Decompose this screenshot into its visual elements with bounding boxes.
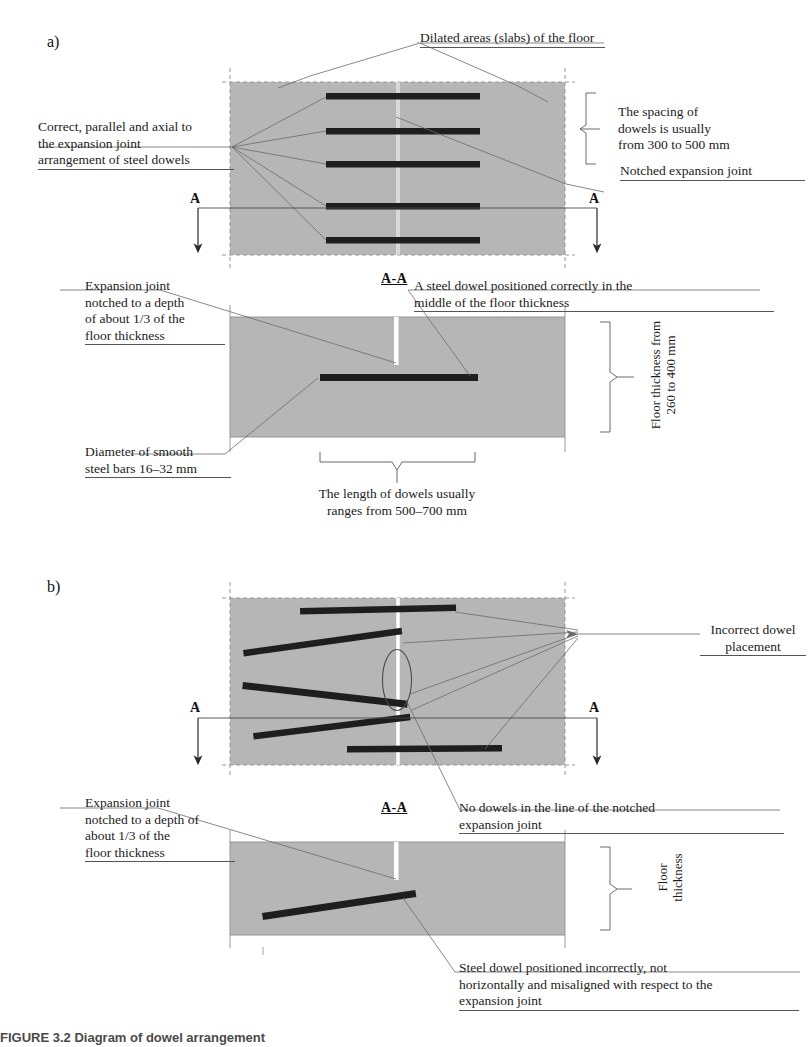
label-incorrect-dowel-placement: Incorrect dowel placement xyxy=(700,622,806,656)
thickness-brace-a xyxy=(600,322,634,432)
label-floor-thickness-a: Floor thickness from 260 to 400 mm xyxy=(648,295,678,455)
dowel-section-a xyxy=(320,374,478,381)
panel-letter-b: b) xyxy=(47,578,60,596)
length-brace-a xyxy=(320,452,475,483)
section-marker-a-left: A xyxy=(190,191,200,207)
label-dowel-correct-middle: A steel dowel positioned correctly in th… xyxy=(414,278,774,312)
figure-caption: FIGURE 3.2 Diagram of dowel arrangement xyxy=(0,1030,470,1047)
label-notched-expansion-joint: Notched expansion joint xyxy=(620,163,805,181)
dowel-a-1 xyxy=(326,93,480,100)
label-dowel-spacing: The spacing of dowels is usually from 30… xyxy=(618,104,804,154)
dowel-a-4 xyxy=(326,203,480,210)
dowel-b-5 xyxy=(347,745,502,753)
panel-b-plan-view xyxy=(198,582,780,810)
dowel-a-2 xyxy=(326,128,480,135)
label-floor-thickness-b: Floor thickness xyxy=(655,830,685,925)
label-expansion-joint-depth-b: Expansion joint notched to a depth of ab… xyxy=(85,795,235,862)
label-dowel-length: The length of dowels usually ranges from… xyxy=(282,486,512,519)
section-marker-a-right: A xyxy=(589,191,599,207)
label-correct-arrangement: Correct, parallel and axial to the expan… xyxy=(38,119,234,170)
section-marker-b-right: A xyxy=(589,700,599,716)
label-no-dowels-in-line: No dowels in the line of the notched exp… xyxy=(459,800,784,834)
dowel-a-5 xyxy=(326,237,480,244)
section-title-b: A-A xyxy=(381,800,407,816)
panel-letter-a: a) xyxy=(47,33,59,51)
label-dilated-areas: Dilated areas (slabs) of the floor xyxy=(420,30,605,48)
thickness-brace-b xyxy=(600,847,632,930)
section-title-a: A-A xyxy=(381,271,407,287)
figure-root: a) b) Dilated areas (slabs) of the floor… xyxy=(0,0,811,1047)
notch-a xyxy=(394,317,399,365)
notch-b xyxy=(394,842,399,880)
section-marker-b-left: A xyxy=(190,700,200,716)
label-bar-diameter: Diameter of smooth steel bars 16–32 mm xyxy=(85,444,231,478)
label-expansion-joint-depth-a: Expansion joint notched to a depth of ab… xyxy=(85,278,225,345)
label-dowel-incorrect-section: Steel dowel positioned incorrectly, not … xyxy=(459,960,799,1011)
spacing-brace-a xyxy=(580,93,600,164)
dowel-a-3 xyxy=(326,161,480,168)
